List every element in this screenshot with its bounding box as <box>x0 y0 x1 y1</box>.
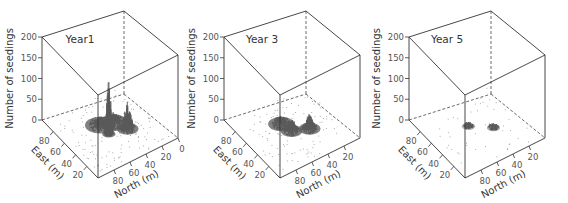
z-tick-label: 100 <box>21 74 37 84</box>
z-axis: 050100150200Number of seedings <box>371 28 409 129</box>
east-tick-label: 40 <box>61 159 72 169</box>
z-tick-label: 200 <box>203 32 219 42</box>
z-tick-label: 0 <box>214 115 219 125</box>
seedling-3d-figure: 050100150200Number of seedings20406080Ea… <box>0 0 568 203</box>
z-axis-title: Number of seedings <box>186 28 197 129</box>
east-tick-label: 80 <box>39 136 50 146</box>
east-tick-label: 20 <box>72 170 83 180</box>
z-tick-label: 50 <box>208 94 219 104</box>
z-tick-label: 200 <box>388 32 404 42</box>
east-tick-label: 80 <box>221 136 232 146</box>
density-surface <box>268 114 321 137</box>
z-tick-label: 50 <box>393 94 404 104</box>
hidden-box-edges <box>224 11 360 138</box>
north-axis: 20406080North (m) <box>294 146 353 200</box>
box-edges <box>224 11 360 178</box>
box-edges <box>409 11 545 178</box>
panel-year-5: 050100150200Number of seedings20406080Ea… <box>371 11 545 200</box>
north-axis: 020406080North (m) <box>112 138 184 200</box>
east-tick-label: 60 <box>232 147 243 157</box>
east-axis: 20406080East (m) <box>396 132 454 182</box>
z-tick-label: 150 <box>21 53 37 63</box>
east-tick-label: 20 <box>254 170 265 180</box>
z-axis-title: Number of seedings <box>371 28 382 129</box>
figure-canvas: 050100150200Number of seedings20406080Ea… <box>0 0 568 203</box>
north-axis: 20406080North (m) <box>479 146 538 200</box>
east-tick-label: 20 <box>439 170 450 180</box>
north-tick-label: 20 <box>343 152 354 162</box>
north-tick-label: 20 <box>528 152 539 162</box>
z-tick-label: 150 <box>203 53 219 63</box>
z-tick-label: 150 <box>388 53 404 63</box>
z-tick-label: 0 <box>399 115 404 125</box>
z-axis: 050100150200Number of seedings <box>4 28 42 129</box>
z-axis: 050100150200Number of seedings <box>186 28 224 129</box>
east-axis: 20406080East (m) <box>211 132 269 182</box>
z-axis-title: Number of seedings <box>4 28 15 129</box>
panel-title: Year 3 <box>245 33 278 45</box>
north-tick-label: 20 <box>161 152 172 162</box>
z-tick-label: 100 <box>388 74 404 84</box>
east-tick-label: 40 <box>243 159 254 169</box>
density-surface <box>462 122 500 131</box>
east-tick-label: 60 <box>50 147 61 157</box>
panel-title: Year 5 <box>430 33 463 45</box>
east-axis: 20406080East (m) <box>29 132 87 182</box>
z-tick-label: 0 <box>32 115 37 125</box>
panel-year-3: 050100150200Number of seedings20406080Ea… <box>186 11 360 200</box>
east-tick-label: 40 <box>428 159 439 169</box>
panel-title: Year1 <box>65 33 95 45</box>
z-tick-label: 200 <box>21 32 37 42</box>
scatter-points <box>439 88 529 164</box>
north-tick-label: 0 <box>179 144 184 154</box>
z-tick-label: 50 <box>26 94 37 104</box>
east-tick-label: 60 <box>417 147 428 157</box>
hidden-box-edges <box>409 11 545 138</box>
z-tick-label: 100 <box>203 74 219 84</box>
east-tick-label: 80 <box>406 136 417 146</box>
panel-year-1: 050100150200Number of seedings20406080Ea… <box>4 11 185 200</box>
